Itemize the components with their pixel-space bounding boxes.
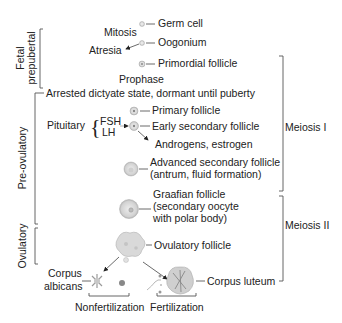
stage-oogonium: Oogonium: [158, 36, 207, 48]
stage-early-secondary-follicle: Early secondary follicle: [152, 120, 260, 132]
corpus-luteum-icon: [167, 267, 194, 294]
oogonium-icon: [140, 41, 145, 46]
stage-graafian-follicle: Graafian follicle: [153, 188, 226, 200]
outcome-fertilization: Fertilization: [150, 301, 204, 313]
bracket-fetal-prepubertal: [40, 29, 43, 88]
androgens-arrow: [138, 131, 148, 140]
sperm-icon: [147, 275, 162, 294]
bracket-pre-ovulatory: [35, 93, 38, 224]
phase-label-prepubertal: prepubertal: [25, 31, 37, 84]
bracket-meiosis-1: [279, 56, 283, 191]
phase-label-pre-ovulatory: Pre-ovulatory: [16, 126, 28, 189]
graafian-follicle-icon: [120, 200, 139, 219]
degenerated-oocyte-icon: [119, 280, 125, 286]
stage-advanced-secondary-follicle: Advanced secondary follicle: [150, 156, 280, 168]
meiosis-2-label: Meiosis II: [285, 219, 329, 231]
stage-graafian-detail-1: (secondary oocyte: [153, 200, 239, 212]
nonfertilization-arrow: [104, 257, 119, 271]
fertilization-arrow: [143, 262, 167, 279]
primary-follicle-icon: [130, 107, 138, 115]
brace-icon: {: [90, 114, 101, 139]
advanced-secondary-follicle-icon: [124, 162, 138, 176]
process-atresia: Atresia: [89, 44, 122, 56]
stage-corpus-albicans-1: Corpus: [48, 267, 82, 279]
stage-graafian-detail-2: with polar body): [152, 212, 227, 224]
early-secondary-follicle-icon: [130, 122, 139, 131]
stage-corpus-luteum: Corpus luteum: [207, 275, 276, 287]
stage-corpus-albicans-2: albicans: [44, 280, 83, 292]
process-arrested-dictyate: Arrested dictyate state, dormant until p…: [46, 87, 256, 99]
bracket-meiosis-2: [279, 196, 283, 281]
ovulatory-follicle-icon: [116, 232, 145, 262]
primordial-follicle-icon: [139, 61, 145, 67]
nonfertilization-bracket: [89, 293, 129, 296]
process-pituitary: Pituitary: [47, 119, 86, 131]
outcome-nonfertilization: Nonfertilization: [75, 301, 145, 313]
process-mitosis: Mitosis: [104, 26, 137, 38]
process-androgens-estrogen: Androgens, estrogen: [155, 138, 253, 150]
phase-label-ovulatory: Ovulatory: [16, 223, 28, 269]
oogenesis-diagram: Fetal prepubertal Pre-ovulatory Ovulator…: [0, 0, 342, 323]
process-prophase: Prophase: [119, 73, 164, 85]
stage-primordial-follicle: Primordial follicle: [158, 57, 238, 69]
corpus-albicans-icon: [92, 274, 102, 288]
stage-germ-cell: Germ cell: [158, 17, 203, 29]
meiosis-1-label: Meiosis I: [285, 121, 326, 133]
atresia-arrow: [126, 44, 139, 49]
stage-primary-follicle: Primary follicle: [152, 104, 220, 116]
stage-ovulatory-follicle: Ovulatory follicle: [154, 239, 231, 251]
stage-advanced-secondary-detail: (antrum, fluid formation): [150, 168, 261, 180]
germ-cell-icon: [140, 22, 145, 27]
bracket-ovulatory: [35, 228, 38, 264]
hormone-lh: LH: [102, 126, 115, 138]
